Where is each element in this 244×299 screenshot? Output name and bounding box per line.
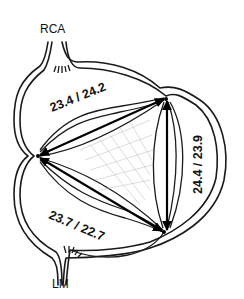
top-right-commissure <box>164 97 168 101</box>
lm-label: LM <box>52 277 69 291</box>
rca-ostium-marks <box>54 65 70 73</box>
measurement-label-top-right-bottom-right: 24.4 / 23.9 <box>191 135 205 194</box>
left-commissure <box>36 154 40 158</box>
measurement-label-left-bottom-right: 23.7 / 22.7 <box>47 208 107 244</box>
aortic-root-diagram: RCA LM 23.4 / 24.2 24.4 / 23.9 23.7 / 22… <box>0 0 244 299</box>
measurement-label-left-top-right: 23.4 / 24.2 <box>48 80 108 115</box>
bottom-right-commissure <box>162 230 166 234</box>
rca-label: RCA <box>40 22 65 36</box>
